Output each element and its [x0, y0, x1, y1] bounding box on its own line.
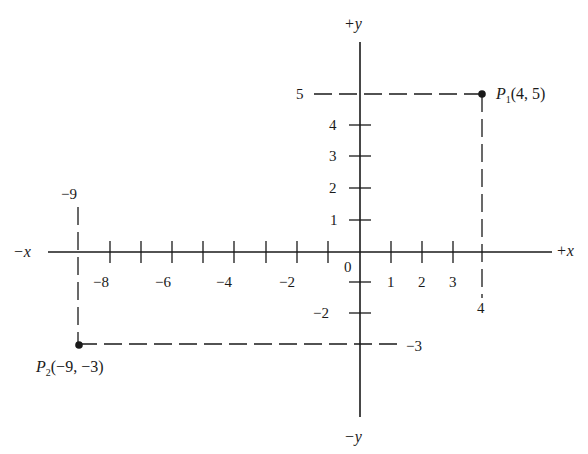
y-negative-label: −y [344, 428, 363, 446]
p1-y-guide-label: 5 [296, 86, 304, 102]
y-tick-label: 1 [330, 212, 338, 228]
x-tick-label: 2 [418, 274, 426, 290]
x-tick-label: 3 [449, 274, 457, 290]
guide-lines [78, 94, 482, 345]
x-negative-label: −x [13, 243, 31, 260]
y-tick-label: 4 [329, 117, 337, 133]
point-p1-label: P1(4, 5) [495, 85, 545, 105]
origin-label: 0 [344, 259, 352, 275]
p1-x-guide-label: 4 [477, 300, 485, 316]
x-tick-label: −2 [279, 274, 295, 290]
point-p2-marker [75, 341, 83, 349]
y-tick-label: 2 [329, 180, 337, 196]
point-p2-label: P2(−9, −3) [35, 358, 103, 378]
x-positive-label: +x [556, 242, 574, 259]
p2-y-guide-label: −3 [406, 338, 422, 354]
p2-x-guide-label: −9 [61, 186, 77, 202]
x-tick-label: −4 [216, 274, 232, 290]
y-positive-label: +y [344, 15, 363, 33]
x-tick-label: −6 [155, 274, 171, 290]
coordinate-plane-diagram: +x −x +y −y 0 −8 −6 −4 −2 1 2 3 4 3 2 1 … [0, 0, 588, 454]
y-tick-label: −2 [313, 305, 329, 321]
x-tick-label: 1 [387, 274, 395, 290]
x-tick-label: −8 [93, 274, 109, 290]
point-p1-marker [478, 90, 486, 98]
y-tick-label: 3 [329, 148, 337, 164]
